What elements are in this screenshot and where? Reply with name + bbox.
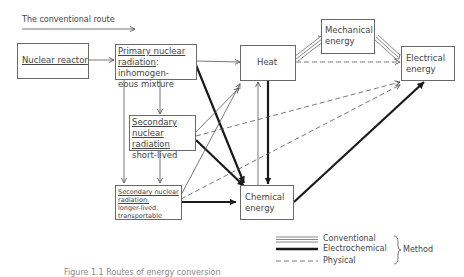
node-label-line4: transportable <box>118 212 179 220</box>
node-label-line1: Secondary nuclear <box>118 188 179 196</box>
node-label: Nuclear reactor <box>22 55 88 65</box>
node-label-line1: Electrical <box>406 53 450 64</box>
node-nuclear-reactor: Nuclear reactor <box>17 43 89 79</box>
node-label-line2: nuclear radiation <box>132 128 193 150</box>
node-secondary-long: Secondary nuclear radiation, longer-live… <box>115 185 182 220</box>
node-heat: Heat <box>240 45 296 81</box>
legend-physical: Physical <box>323 256 356 265</box>
node-chemical-energy: Chemical energy <box>240 185 294 220</box>
figure-caption: Figure 1.1 Routes of energy conversion <box>64 268 221 277</box>
legend-conventional: Conventional <box>323 234 376 243</box>
legend-electrochemical: Electrochemical <box>323 244 387 253</box>
node-label-line2: energy <box>325 36 371 47</box>
node-label-line1: Secondary <box>132 117 193 128</box>
node-label-line1: Chemical <box>245 192 289 203</box>
node-label: Heat <box>257 57 277 67</box>
node-mechanical-energy: Mechanical energy <box>321 19 375 54</box>
node-label-line2: radiation, <box>118 196 179 204</box>
node-label-line1: Primary nuclear <box>118 46 185 56</box>
node-label-line1: Mechanical <box>325 25 371 36</box>
node-label-line2: energy <box>406 64 450 75</box>
node-label-line3: longer-lived, <box>118 204 179 212</box>
diagram-title: The conventional route <box>22 15 115 24</box>
node-primary-radiation: Primary nuclear radiation: inhomogen- eo… <box>115 44 197 80</box>
node-secondary-short: Secondary nuclear radiation short-lived <box>129 115 196 151</box>
legend-method: Method <box>403 245 433 254</box>
node-electrical-energy: Electrical energy <box>401 46 455 81</box>
node-label-line2: energy <box>245 203 289 214</box>
node-label-line3: eous mixture <box>118 79 194 90</box>
node-label-line2: radiation <box>118 57 156 67</box>
node-label-line3: short-lived <box>132 150 193 161</box>
